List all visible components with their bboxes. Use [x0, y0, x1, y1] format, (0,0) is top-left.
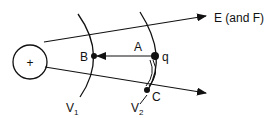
field-line-upper — [44, 16, 206, 42]
charge-sign: + — [26, 56, 33, 70]
v2-label: V2 — [131, 101, 144, 117]
point-c — [144, 87, 150, 93]
equipotential-diagram: + E (and F) V1 V2 B A q C — [0, 0, 271, 118]
point-a-label: A — [134, 40, 142, 54]
charge-q — [151, 52, 159, 60]
field-label: E (and F) — [214, 11, 264, 25]
point-charge: + — [13, 45, 47, 79]
point-b — [91, 53, 97, 59]
charge-q-label: q — [162, 50, 169, 64]
v1-label: V1 — [66, 101, 79, 117]
v2-pointer — [140, 95, 147, 104]
point-c-label: C — [152, 90, 161, 104]
point-b-label: B — [80, 50, 88, 64]
field-line-lower — [45, 67, 206, 93]
